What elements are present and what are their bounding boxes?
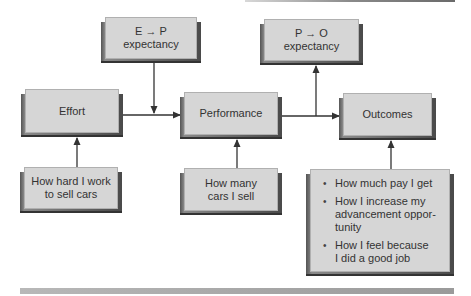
ep-expectancy-box: E → P expectancy	[101, 17, 201, 63]
outcome-item: How I feel because I did a good job	[327, 239, 449, 265]
effort-example-box: How hard I work to sell cars	[20, 167, 122, 213]
performance-example-line1: How many	[205, 177, 257, 190]
performance-example-line2: cars I sell	[208, 190, 254, 203]
po-expectancy-box: P → O expectancy	[260, 19, 363, 65]
effort-label: Effort	[59, 105, 85, 118]
po-expectancy-line2: expectancy	[284, 40, 340, 53]
performance-box: Performance	[180, 92, 282, 139]
effort-example-line1: How hard I work	[31, 175, 110, 188]
effort-box: Effort	[21, 89, 123, 137]
performance-example-box: How many cars I sell	[180, 168, 282, 215]
outcomes-box: Outcomes	[339, 93, 436, 140]
outcome-item: How much pay I get	[327, 177, 449, 190]
outcomes-examples-list: How much pay I get How I increase my adv…	[311, 173, 449, 270]
po-expectancy-line1: P → O	[295, 27, 328, 40]
outcome-item: How I increase my advancement oppor- tun…	[327, 195, 449, 234]
outcomes-label: Outcomes	[362, 108, 412, 121]
bottom-rule	[20, 288, 454, 294]
ep-expectancy-line1: E → P	[135, 25, 167, 38]
performance-label: Performance	[200, 107, 263, 120]
outcomes-examples-box: How much pay I get How I increase my adv…	[306, 169, 454, 276]
effort-example-line2: to sell cars	[45, 188, 98, 201]
ep-expectancy-line2: expectancy	[123, 38, 179, 51]
